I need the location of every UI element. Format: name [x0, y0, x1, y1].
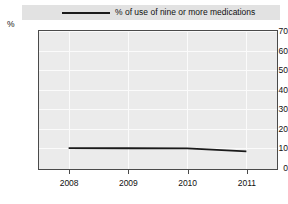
legend-item-label: % of use of nine or more medications — [115, 6, 255, 19]
x-axis-tick-label: 2008 — [49, 178, 89, 188]
legend-line-swatch — [62, 12, 110, 14]
x-axis-tick-label: 2009 — [108, 178, 148, 188]
x-axis-tick-label: 2011 — [227, 178, 267, 188]
series-line-medications — [69, 148, 247, 151]
plot-inner — [39, 31, 277, 169]
plot-area — [38, 30, 278, 170]
x-axis-tick-mark — [188, 170, 189, 174]
x-axis-tick-mark — [247, 170, 248, 174]
x-axis-tick-mark — [69, 170, 70, 174]
chart-legend: % of use of nine or more medications — [22, 5, 280, 20]
series-layer — [39, 31, 276, 168]
x-axis-tick-label: 2010 — [168, 178, 208, 188]
x-axis-tick-mark — [128, 170, 129, 174]
y-axis-unit-label: % — [7, 19, 15, 29]
